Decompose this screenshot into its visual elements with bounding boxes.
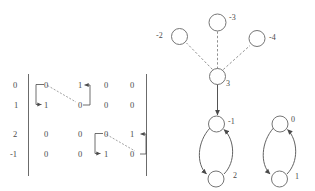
figure-vector-layer: [0, 0, 315, 191]
cycle-left-nodes: [208, 116, 225, 187]
node-label-1: 1: [295, 173, 299, 181]
node--1: [209, 116, 225, 132]
matrix-bracket-block2-right: [140, 134, 146, 154]
node-label-0: 0: [291, 116, 295, 124]
node-3-center: [210, 69, 226, 85]
matrix-cell-r3c2: 1: [104, 150, 108, 159]
node-label--1: -1: [228, 118, 235, 126]
matrix-row-label--1: -1: [10, 150, 17, 159]
node-label-2: 2: [233, 172, 237, 180]
edge-center-to-leaf--2: [187, 43, 216, 73]
node-1: [272, 171, 288, 187]
matrix-cell-r0c2: 0: [104, 81, 108, 90]
star-edges: [187, 30, 251, 73]
node-2: [208, 171, 224, 187]
node--2: [172, 29, 188, 45]
node-label--2: -2: [156, 32, 163, 40]
matrix-dashed-diagonal-block1: [48, 86, 77, 103]
cycle-left-edge-down: [199, 128, 210, 174]
matrix-cell-r3c1: 0: [78, 150, 82, 159]
node-label--3: -3: [229, 14, 236, 22]
matrix-cell-r0c3: 0: [130, 81, 134, 90]
matrix-bracket-block2-left: [95, 134, 103, 154]
cycle-right-edges: [263, 128, 295, 174]
matrix-cell-r3c3: 0: [130, 150, 134, 159]
node--4: [249, 31, 265, 47]
matrix-cell-r1c3: 0: [130, 101, 134, 110]
matrix-cell-r2c0: 0: [44, 130, 48, 139]
matrix-cell-r0c0: 0: [44, 81, 48, 90]
node-label-3: 3: [226, 80, 230, 88]
matrix-cell-r0c1: 1: [78, 81, 82, 90]
node--3: [209, 14, 226, 31]
cycle-left-edges: [199, 128, 232, 174]
cycle-left-edge-up: [224, 130, 233, 175]
matrix-cell-r2c2: 0: [104, 130, 108, 139]
matrix-row-label-0: 0: [13, 81, 17, 90]
matrix-row-label-1: 1: [14, 101, 18, 110]
figure-canvas: 0 1 2 -1 0 1 0 0 1 0 0 0 0 0 0 1 0 0 1 0…: [0, 0, 315, 191]
matrix-cell-r1c0: 1: [44, 101, 48, 110]
matrix-bracket-block1-left: [36, 85, 44, 105]
matrix-bracket-block1-right: [83, 85, 90, 105]
matrix-cell-r3c0: 0: [44, 150, 48, 159]
cycle-right-nodes: [272, 116, 289, 187]
node-0: [272, 116, 288, 132]
cycle-right-edge-down: [263, 128, 273, 174]
matrix-cell-r1c1: 0: [78, 101, 82, 110]
cycle-right-edge-up: [287, 130, 296, 175]
matrix-cell-r2c1: 0: [78, 130, 82, 139]
star-nodes: [172, 14, 266, 85]
matrix-cell-r2c3: 1: [130, 130, 134, 139]
node-label--4: -4: [269, 34, 276, 42]
edge-center-to-leaf--4: [220, 46, 250, 73]
matrix-row-label-2: 2: [13, 130, 17, 139]
matrix-cell-r1c2: 0: [104, 101, 108, 110]
